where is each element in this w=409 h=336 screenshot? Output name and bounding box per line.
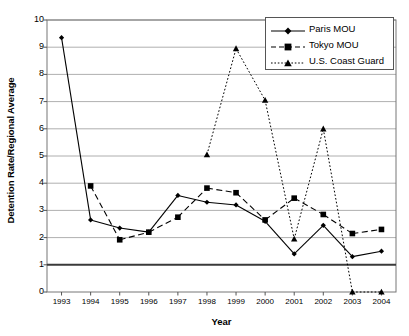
data-point-marker [204,200,209,205]
data-point-marker [233,45,239,51]
x-tick-label: 2004 [366,297,396,306]
data-point-marker [291,236,297,242]
x-tick-label: 2003 [337,297,367,306]
data-point-marker [379,227,385,233]
tokyo-mou-line-sample [270,39,306,51]
legend-label-paris-mou: Paris MOU [309,23,355,34]
legend-item-us-coast-guard[interactable]: U.S. Coast Guard [270,53,384,68]
data-point-marker [175,214,181,220]
x-tick-label: 2002 [308,297,338,306]
data-point-marker [233,202,238,207]
data-point-marker [146,229,152,235]
data-point-marker [117,237,123,243]
series-lines [62,38,382,292]
x-tick-label: 1999 [221,297,251,306]
x-axis-title: Year [47,316,396,327]
x-tick-label: 2001 [279,297,309,306]
line-chart: Detention Rate/Regional Average 01234567… [0,0,409,336]
data-point-marker [204,151,210,157]
data-point-marker [204,185,210,191]
data-point-marker [88,217,93,222]
x-tick-label: 1994 [76,297,106,306]
x-tick-label: 1993 [47,297,77,306]
legend-label-tokyo-mou: Tokyo MOU [309,39,359,50]
data-point-marker [262,217,268,223]
x-tick-label: 1998 [192,297,222,306]
data-point-marker [262,97,268,103]
x-tick-label: 1995 [105,297,135,306]
data-point-marker [320,212,326,218]
legend-item-paris-mou[interactable]: Paris MOU [270,21,355,36]
x-tick-label: 1997 [163,297,193,306]
paris-mou-line-sample [270,23,306,35]
data-point-marker [88,183,94,189]
data-point-marker [233,190,239,196]
legend-label-us-coast-guard: U.S. Coast Guard [309,55,384,66]
x-tick-label: 1996 [134,297,164,306]
us-coast-guard-line-sample [270,55,306,67]
data-point-marker [291,195,297,201]
x-tick-label: 2000 [250,297,280,306]
data-point-marker [350,231,356,237]
data-point-marker [59,35,64,40]
legend-item-tokyo-mou[interactable]: Tokyo MOU [270,37,359,52]
legend: Paris MOU Tokyo MOU U.S. Coast Guard [265,17,394,70]
data-point-marker [117,225,122,230]
data-point-marker [379,249,384,254]
